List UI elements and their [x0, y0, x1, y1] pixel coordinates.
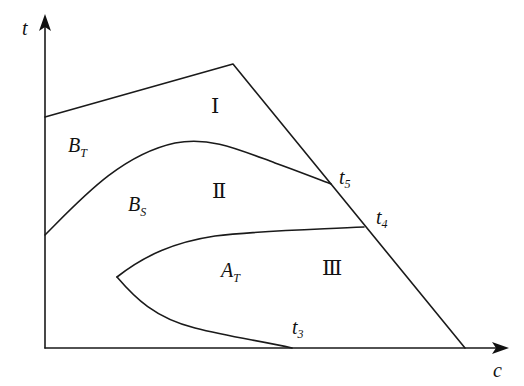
t-axis-label: t	[22, 17, 28, 39]
point-label-t3: t3	[292, 316, 304, 341]
region-III-label: Ⅲ	[322, 256, 342, 280]
region-I-label: Ⅰ	[211, 94, 219, 118]
bs-boundary-curve	[45, 141, 331, 235]
region-II-label: Ⅱ	[212, 179, 226, 203]
phase-label-BS-main: B	[128, 193, 140, 215]
at-lower-curve	[117, 277, 292, 348]
upper-boundary-line	[45, 64, 465, 348]
c-axis-label: c	[493, 359, 502, 381]
point-label-t5: t5	[339, 166, 351, 191]
phase-label-BT-main: B	[68, 134, 80, 156]
phase-label-BS-sub: S	[140, 205, 146, 219]
phase-label-BT: BT	[68, 134, 88, 160]
point-label-t4-sub: 4	[382, 217, 388, 231]
phase-diagram: t c Ⅰ Ⅱ Ⅲ BT BS AT t5 t4 t3	[0, 0, 524, 386]
phase-label-AT-sub: T	[233, 271, 241, 285]
point-label-t4: t4	[376, 206, 388, 231]
phase-label-BS: BS	[128, 193, 146, 219]
point-label-t3-sub: 3	[297, 327, 304, 341]
phase-label-AT-main: A	[219, 259, 234, 281]
phase-label-BT-sub: T	[80, 146, 88, 160]
phase-label-AT: AT	[219, 259, 241, 285]
point-label-t5-sub: 5	[345, 177, 351, 191]
